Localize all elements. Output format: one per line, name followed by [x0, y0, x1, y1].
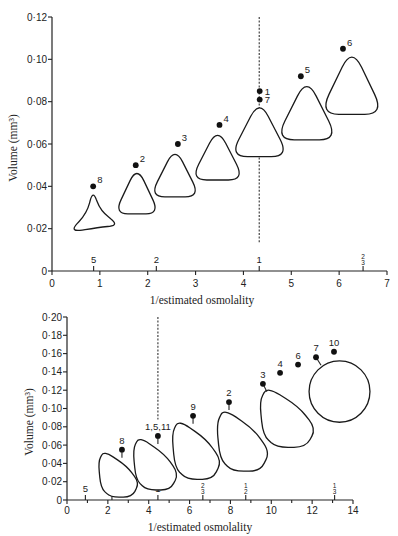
x-tick-label: 5: [289, 278, 295, 289]
data-point: [90, 183, 96, 189]
chart-bottom-volume-vs-osmolality: 00·020·040·060·080·100·120·140·160·180·2…: [23, 312, 370, 535]
data-point: [190, 413, 196, 419]
cell-outline: [173, 423, 220, 479]
y-tick-label: 0: [56, 495, 62, 506]
cell-outline: [134, 440, 177, 490]
cell-outline: [282, 87, 332, 140]
x-tick-label: 1: [97, 278, 103, 289]
axis-marker-label: 5: [91, 254, 96, 265]
point-label: 4: [277, 358, 282, 369]
data-point: [257, 88, 263, 94]
point-label: 5: [305, 64, 310, 75]
y-tick-label: 0·12: [27, 12, 47, 23]
y-tick-label: 0·06: [27, 139, 47, 150]
point-label: 9: [190, 401, 195, 412]
point-label: 7: [313, 342, 318, 353]
x-axis-title: 1/estimated osmolality: [150, 294, 255, 307]
point-label: 8: [97, 174, 102, 185]
y-tick-label: 0·08: [27, 96, 47, 107]
axis-marker-label: 5: [83, 483, 88, 494]
cell-outline: [99, 453, 137, 497]
point-label: 1,5,11: [145, 421, 171, 432]
point-label: 2: [226, 387, 231, 398]
data-point: [340, 46, 346, 52]
point-label: 8: [119, 435, 124, 446]
axis-marker-label: 2: [154, 254, 159, 265]
axis-marker-fraction-denominator: 3: [201, 488, 205, 495]
x-tick-label: 0: [49, 278, 55, 289]
x-axis-title: 1/estimated osmolality: [148, 521, 253, 534]
data-point: [260, 381, 266, 387]
y-tick-label: 0·14: [42, 366, 62, 377]
y-tick-label: 0·12: [42, 385, 62, 396]
y-tick-label: 0·02: [27, 223, 47, 234]
y-axis-title: Volume (mm³): [7, 114, 20, 182]
y-tick-label: 0·10: [27, 54, 47, 65]
axis-marker-fraction-denominator: 2: [244, 488, 248, 495]
y-tick-label: 0·04: [27, 181, 47, 192]
cell-outline: [326, 57, 378, 114]
axis-marker-label: 1: [257, 254, 262, 265]
axis-marker-fraction-denominator: 3: [361, 259, 365, 266]
y-tick-label: 0·20: [42, 312, 62, 323]
y-tick-label: 0·18: [42, 330, 62, 341]
cell-outline: [309, 361, 370, 422]
x-tick-label: 2: [145, 278, 151, 289]
y-tick-label: 0·04: [42, 458, 62, 469]
axis-marker-fraction-denominator: 3: [333, 488, 337, 495]
x-tick-label: 3: [193, 278, 199, 289]
cell-outline: [236, 108, 283, 157]
x-tick-label: 6: [187, 505, 193, 516]
cell-outline: [261, 390, 314, 447]
x-tick-label: 7: [384, 278, 390, 289]
x-tick-label: 14: [347, 505, 359, 516]
data-point: [257, 97, 263, 103]
point-label: 3: [260, 369, 265, 380]
y-tick-label: 0·16: [42, 348, 62, 359]
x-tick-label: 4: [146, 505, 152, 516]
y-tick-label: 0: [41, 266, 47, 277]
data-point: [119, 447, 125, 453]
y-tick-label: 0·02: [42, 476, 62, 487]
y-axis-title: Volume (mm³): [23, 388, 36, 456]
point-label: 6: [347, 37, 352, 48]
data-point: [298, 73, 304, 79]
point-label: 2: [140, 153, 145, 164]
data-point: [217, 122, 223, 128]
data-point: [331, 349, 337, 355]
x-tick-label: 10: [266, 505, 278, 516]
y-tick-label: 0·06: [42, 440, 62, 451]
data-point: [155, 433, 161, 439]
cell-outline: [217, 412, 267, 471]
cell-outline: [74, 195, 114, 230]
point-label: 3: [182, 132, 187, 143]
y-tick-label: 0·08: [42, 421, 62, 432]
figure: 00·020·040·060·080·100·12012345675212382…: [0, 0, 398, 536]
data-point: [277, 370, 283, 376]
point-label: 6: [295, 350, 300, 361]
data-point: [133, 162, 139, 168]
cell-outline: [155, 154, 195, 196]
chart-top-volume-vs-osmolality: 00·020·040·060·080·100·12012345675212382…: [7, 12, 390, 308]
cell-outline: [196, 135, 239, 180]
y-tick-label: 0·10: [42, 403, 62, 414]
x-tick-label: 2: [105, 505, 111, 516]
x-tick-label: 6: [336, 278, 342, 289]
point-label: 4: [224, 113, 229, 124]
x-tick-label: 12: [307, 505, 319, 516]
data-point: [226, 399, 232, 405]
data-point: [295, 362, 301, 368]
x-tick-label: 0: [64, 505, 70, 516]
x-tick-label: 8: [228, 505, 234, 516]
cell-outline: [119, 174, 155, 214]
x-tick-label: 4: [241, 278, 247, 289]
point-label: 10: [329, 337, 340, 348]
point-label: 7: [265, 94, 270, 105]
data-point: [175, 141, 181, 147]
data-point: [313, 354, 319, 360]
